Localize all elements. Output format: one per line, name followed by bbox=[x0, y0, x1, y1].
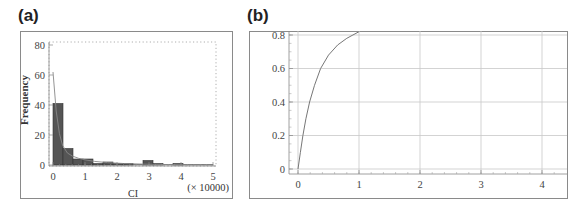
chart-canvas: 012345 020406080 CI (× 10000) Frequency … bbox=[0, 0, 584, 209]
x-tick-label: 2 bbox=[417, 179, 422, 190]
x-multiplier-label: (× 10000) bbox=[187, 182, 229, 194]
fit-curve bbox=[53, 72, 213, 165]
y-ticks-b: 00.20.40.60.8 bbox=[272, 30, 293, 175]
y-tick-label: 0.6 bbox=[272, 63, 285, 74]
x-tick-label: 3 bbox=[146, 171, 151, 182]
y-tick-label: 0 bbox=[40, 160, 45, 171]
y-tick-label: 60 bbox=[35, 70, 46, 81]
x-tick-label: 4 bbox=[178, 171, 184, 182]
y-axis-title-a: Frequency bbox=[18, 75, 30, 125]
y-tick-label: 0.8 bbox=[272, 30, 285, 41]
y-tick-label: 0.2 bbox=[272, 130, 285, 141]
x-axis-title-a: CI bbox=[128, 188, 138, 199]
cumulative-line bbox=[298, 32, 359, 169]
x-tick-label: 4 bbox=[539, 179, 545, 190]
x-tick-label: 5 bbox=[210, 171, 215, 182]
y-tick-label: 40 bbox=[35, 100, 46, 111]
histogram-chart: 012345 020406080 CI (× 10000) Frequency bbox=[18, 40, 229, 200]
x-tick-label: 0 bbox=[295, 179, 300, 190]
y-tick-label: 0.4 bbox=[272, 97, 286, 108]
histogram-bars bbox=[53, 104, 213, 166]
x-tick-label: 1 bbox=[82, 171, 87, 182]
x-tick-label: 1 bbox=[356, 179, 361, 190]
y-ticks-a: 020406080 bbox=[35, 40, 54, 171]
x-tick-label: 0 bbox=[50, 171, 55, 182]
y-tick-label: 0 bbox=[280, 164, 285, 175]
x-tick-label: 3 bbox=[478, 179, 483, 190]
plot-area-a bbox=[49, 42, 216, 166]
line-chart: 01234 00.20.40.60.8 bbox=[272, 30, 567, 191]
x-tick-label: 2 bbox=[114, 171, 119, 182]
histogram-bar bbox=[73, 159, 83, 165]
y-tick-label: 80 bbox=[35, 40, 46, 51]
x-ticks-b: 01234 bbox=[295, 170, 554, 190]
histogram-bar bbox=[53, 104, 63, 166]
y-tick-label: 20 bbox=[35, 130, 46, 141]
histogram-bar bbox=[63, 149, 73, 166]
